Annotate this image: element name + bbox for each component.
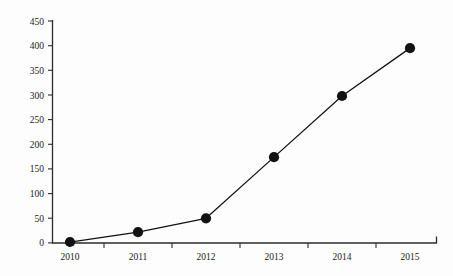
- series-data-point: [65, 237, 75, 247]
- chart-figure: 450 400 350 300 250 200 150 100 50 0: [0, 0, 453, 276]
- x-tick-label: 2013: [265, 252, 284, 262]
- x-tick-label: 2015: [401, 252, 420, 262]
- y-tick-label: 0: [39, 238, 44, 248]
- y-tick-label: 100: [30, 189, 45, 199]
- x-tick-label: 2010: [61, 252, 80, 262]
- series-data-point: [201, 213, 211, 223]
- line-chart-canvas: 450 400 350 300 250 200 150 100 50 0: [0, 0, 453, 276]
- series-data-point: [133, 227, 143, 237]
- series-data-point: [405, 43, 415, 53]
- y-tick-label: 50: [35, 214, 45, 224]
- y-tick-label: 450: [30, 17, 45, 27]
- y-axis-tick-labels: 450 400 350 300 250 200 150 100 50 0: [30, 17, 45, 249]
- y-tick-label: 350: [30, 66, 45, 76]
- y-tick-label: 250: [30, 115, 45, 125]
- y-tick-label: 200: [30, 140, 45, 150]
- series-data-point: [269, 152, 279, 162]
- y-tick-label: 400: [30, 41, 45, 51]
- x-tick-label: 2012: [197, 252, 216, 262]
- x-tick-label: 2011: [129, 252, 148, 262]
- series-data-point: [337, 91, 347, 101]
- series-line: [70, 48, 410, 242]
- x-axis-tick-marks: [104, 243, 376, 248]
- series-markers: [65, 43, 415, 247]
- y-tick-label: 300: [30, 91, 45, 101]
- y-tick-label: 150: [30, 164, 45, 174]
- x-tick-label: 2014: [333, 252, 352, 262]
- x-axis-tick-labels: 2010 2011 2012 2013 2014 2015: [61, 252, 420, 262]
